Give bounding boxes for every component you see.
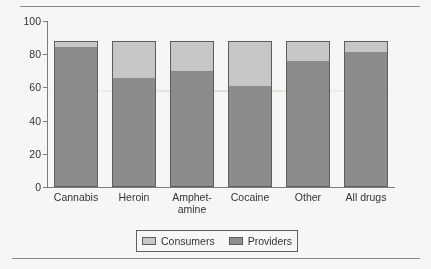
- x-axis-label-line: amine: [157, 203, 227, 215]
- y-axis-tick-label: 20: [3, 149, 41, 159]
- stacked-bar: [344, 41, 388, 187]
- x-axis-category-label: All drugs: [331, 191, 401, 203]
- stacked-bar: [228, 41, 272, 187]
- y-axis-tick-label: 40: [3, 116, 41, 126]
- bar-segment-providers: [345, 52, 387, 186]
- y-axis-tick-label: 80: [3, 49, 41, 59]
- legend-swatch-providers: [229, 237, 243, 245]
- chart-legend: ConsumersProviders: [136, 230, 298, 252]
- bar-segment-providers: [113, 78, 155, 186]
- bar-segment-consumers: [171, 42, 213, 74]
- bar-segment-providers: [171, 71, 213, 186]
- legend-swatch-consumers: [142, 237, 156, 245]
- bar-segment-consumers: [113, 42, 155, 80]
- bars-container: [47, 21, 395, 187]
- bar-segment-consumers: [287, 42, 329, 63]
- legend-label: Providers: [248, 236, 292, 247]
- y-axis-tick-labels: 020406080100: [0, 0, 41, 200]
- y-axis-tick-label: 0: [3, 182, 41, 192]
- bar-segment-providers: [55, 47, 97, 186]
- chart-page: 020406080100 CannabisHeroinAmphet-amineC…: [0, 0, 431, 269]
- legend-label: Consumers: [161, 236, 215, 247]
- y-axis-tick-label: 100: [3, 16, 41, 26]
- stacked-bar: [170, 41, 214, 187]
- x-axis-category-labels: CannabisHeroinAmphet-amineCocaineOtherAl…: [47, 191, 395, 225]
- y-axis-tick: [43, 187, 48, 188]
- x-axis-label-line: All drugs: [331, 191, 401, 203]
- stacked-bar: [112, 41, 156, 187]
- y-axis-tick-label: 60: [3, 82, 41, 92]
- plot-area: 020406080100 CannabisHeroinAmphet-amineC…: [0, 0, 431, 269]
- legend-item[interactable]: Consumers: [142, 236, 215, 247]
- bar-segment-providers: [229, 86, 271, 186]
- stacked-bar: [54, 41, 98, 187]
- bar-segment-consumers: [229, 42, 271, 88]
- bar-segment-providers: [287, 61, 329, 186]
- x-axis-line: [47, 187, 395, 188]
- stacked-bar: [286, 41, 330, 187]
- legend-item[interactable]: Providers: [229, 236, 292, 247]
